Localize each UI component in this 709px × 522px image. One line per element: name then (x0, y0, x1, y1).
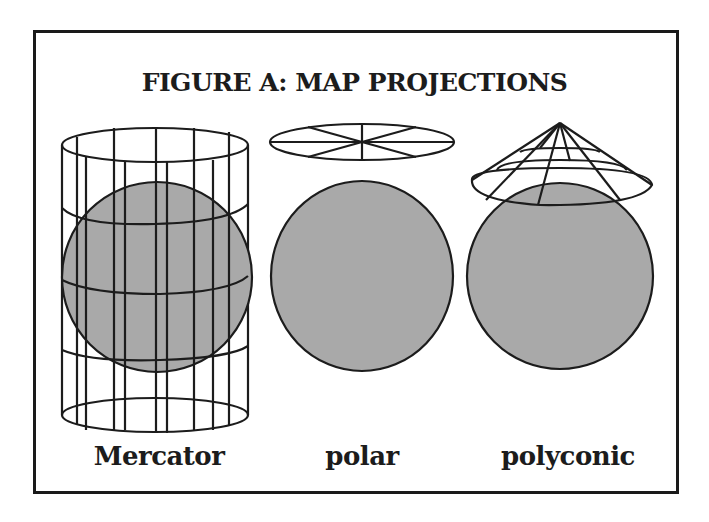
polar-plane (270, 124, 454, 160)
polyconic-diagram (467, 123, 653, 369)
label-mercator: Mercator (59, 441, 259, 471)
label-polar: polar (262, 441, 462, 471)
mercator-diagram (62, 128, 252, 433)
polar-diagram (270, 124, 454, 371)
label-polyconic: polyconic (468, 441, 668, 471)
polar-globe (271, 181, 453, 371)
polyconic-globe (467, 183, 653, 369)
